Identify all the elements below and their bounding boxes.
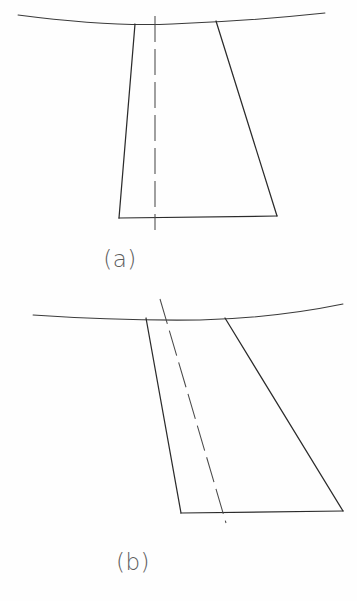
panel-caption-a: (a) xyxy=(0,246,240,272)
surface-line-b xyxy=(33,304,343,320)
trapezoid-bottom-edge-b xyxy=(181,511,343,513)
trapezoid-right-edge-b xyxy=(225,318,343,511)
trapezoid-bottom-edge-a xyxy=(119,216,277,218)
trapezoid-right-edge-a xyxy=(216,21,277,216)
figure-root: (a) (b) xyxy=(0,0,357,601)
panel-caption-b: (b) xyxy=(0,549,266,575)
surface-line-a xyxy=(18,13,325,25)
panel-a xyxy=(18,13,325,230)
panel-b xyxy=(33,299,343,523)
sketch-canvas xyxy=(0,0,357,601)
trapezoid-left-edge-b xyxy=(146,318,181,513)
trapezoid-left-edge-a xyxy=(119,24,135,218)
inclined-centerline-b xyxy=(160,299,226,523)
